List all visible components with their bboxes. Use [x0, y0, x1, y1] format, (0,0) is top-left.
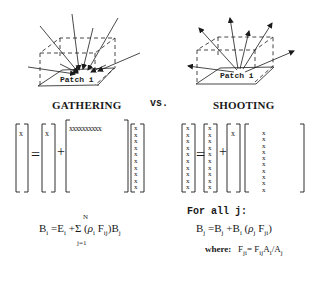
gathering-plus-sign: +: [57, 144, 65, 160]
formula-sub: i: [64, 229, 66, 237]
formula-eq: =: [247, 244, 252, 254]
formula-paren: ): [268, 222, 272, 234]
gathering-lhs-entry: x: [19, 129, 23, 138]
shooting-plus-sign: +: [219, 144, 227, 160]
shooting-lhs-column: xxxxxxxxxx: [186, 125, 192, 191]
shooting-formula-intro: For all j:: [187, 206, 247, 217]
formula-sub: i: [240, 229, 242, 237]
summation-symbol: Σ: [75, 222, 81, 234]
gathering-title: GATHERING: [52, 99, 121, 111]
formula-sub: j: [281, 249, 283, 257]
gathering-matrix-row: xxxxxxxxxx: [69, 124, 101, 133]
shooting-matrix-column: xxxxxxxxxx: [262, 130, 268, 193]
formula-b: B: [214, 222, 221, 234]
versus-label: vs.: [150, 98, 168, 109]
formula-sub: j: [254, 229, 256, 237]
gathering-patch-label: Patch i: [60, 75, 94, 84]
formula-sub: j: [119, 229, 121, 237]
formula-sub: j: [222, 229, 224, 237]
gathering-rhs-entry: x: [45, 129, 49, 138]
shooting-title: SHOOTING: [213, 99, 275, 111]
shooting-scalar-entry: x: [231, 129, 235, 138]
formula-sub: i: [46, 229, 48, 237]
shooting-where-clause: where: Fji= FijAi/Aj: [205, 244, 283, 257]
diagram-canvas: [0, 0, 320, 281]
gathering-column-vector: xxxxxxxxxx: [134, 125, 140, 191]
formula-e: E: [57, 222, 64, 234]
shooting-arrows: [188, 18, 294, 72]
summation-lower-limit: j=1: [77, 239, 86, 247]
formula-sub: i: [93, 229, 95, 237]
shooting-formula: Bj =Bj +Bi (ρj Fji): [196, 222, 272, 237]
where-label: where:: [205, 244, 231, 254]
summation-upper-limit: N: [83, 213, 88, 221]
shooting-patch-label: Patch i: [220, 71, 254, 80]
gathering-formula: Bi =Ei +Σ (ρi Fij)Bj: [39, 222, 121, 237]
formula-b: B: [233, 222, 240, 234]
gathering-equals-sign: =: [31, 146, 40, 164]
formula-b: B: [111, 222, 118, 234]
shooting-rhs-column: xxxxxxxxxx: [208, 125, 214, 191]
gathering-arrows: [28, 14, 140, 74]
formula-sub: j: [203, 229, 205, 237]
shooting-equals-sign: =: [196, 146, 205, 164]
